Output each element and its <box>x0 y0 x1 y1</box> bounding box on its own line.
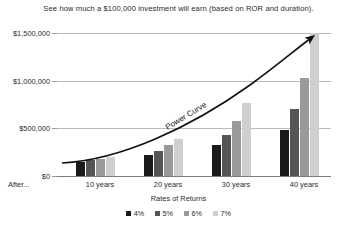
bar-30-years-4pct <box>212 145 221 176</box>
legend-swatch-icon-5pct <box>155 211 160 216</box>
legend-swatch-icon-7pct <box>213 211 218 216</box>
legend-label-4pct: 4% <box>134 210 144 217</box>
bar-20-years-6pct <box>164 145 173 176</box>
legend-label-7pct: 7% <box>220 210 230 217</box>
x-axis-label-20-years: 20 years <box>154 180 182 189</box>
bar-group-30-years <box>212 103 251 176</box>
bar-group-40-years <box>280 33 319 176</box>
chart-title: See how much a $100,000 investment will … <box>0 4 357 13</box>
bar-20-years-4pct <box>144 155 153 176</box>
bar-10-years-7pct <box>106 157 115 176</box>
x-axis-label-40-years: 40 years <box>290 180 318 189</box>
bar-40-years-4pct <box>280 130 289 176</box>
investment-growth-chart: See how much a $100,000 investment will … <box>0 0 357 237</box>
bar-30-years-6pct <box>232 121 241 176</box>
y-axis-label-500000: $500,000 <box>0 124 50 133</box>
bar-group-10-years <box>76 157 115 176</box>
x-axis-label-30-years: 30 years <box>222 180 250 189</box>
chart-legend: 4% 5% 6% 7% <box>0 210 357 217</box>
legend-item-7pct[interactable]: 7% <box>213 210 231 217</box>
legend-item-6pct[interactable]: 6% <box>184 210 202 217</box>
legend-item-4pct[interactable]: 4% <box>126 210 144 217</box>
bar-40-years-6pct <box>300 78 309 176</box>
bar-20-years-5pct <box>154 151 163 176</box>
bar-group-20-years <box>144 139 183 176</box>
x-axis-line <box>57 176 331 177</box>
bar-10-years-5pct <box>86 160 95 176</box>
legend-swatch-icon-6pct <box>184 211 189 216</box>
bar-10-years-4pct <box>76 162 85 176</box>
bar-20-years-7pct <box>174 139 183 176</box>
x-axis-title: Rates of Returns <box>0 194 357 203</box>
bar-40-years-5pct <box>290 109 299 176</box>
legend-label-5pct: 5% <box>163 210 173 217</box>
bar-30-years-5pct <box>222 135 231 176</box>
bar-40-years-7pct <box>310 33 319 176</box>
legend-label-6pct: 6% <box>192 210 202 217</box>
legend-swatch-icon-4pct <box>126 211 131 216</box>
legend-item-5pct[interactable]: 5% <box>155 210 173 217</box>
bar-30-years-7pct <box>242 103 251 176</box>
after-label: After... <box>8 180 29 189</box>
y-axis-label-1000000: $1,000,000 <box>0 76 50 85</box>
x-axis-label-10-years: 10 years <box>86 180 114 189</box>
y-axis-label-1500000: $1,500,000 <box>0 29 50 38</box>
bar-10-years-6pct <box>96 159 105 176</box>
